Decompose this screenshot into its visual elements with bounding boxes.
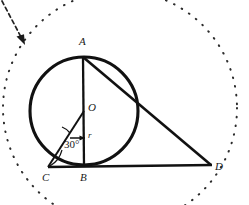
segment-ad <box>83 57 211 165</box>
label-point-a: A <box>79 36 86 47</box>
label-point-b: B <box>80 172 87 183</box>
label-point-c: C <box>42 172 49 183</box>
outer-dotted-circle <box>3 0 237 205</box>
label-angle-30: 30° <box>64 139 79 150</box>
label-center-o: O <box>88 102 96 113</box>
pointer-arrow <box>2 1 25 45</box>
label-point-d: D <box>215 161 223 172</box>
diagram-canvas: A B C D O r 30° <box>0 0 249 205</box>
label-radius-r: r <box>88 131 92 140</box>
angle-arc-30 <box>62 127 70 133</box>
geometry-figure <box>0 0 249 205</box>
